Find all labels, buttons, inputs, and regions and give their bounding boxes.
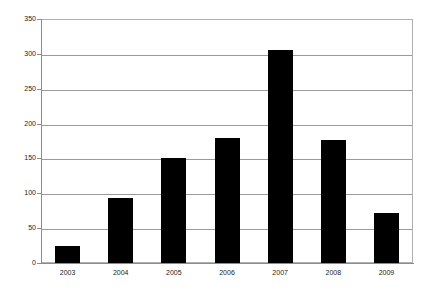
y-axis-tick-label: 350 [6, 15, 36, 23]
bar [215, 138, 240, 263]
bar-chart: 050100150200250300350 200320042005200620… [0, 0, 430, 291]
bar [55, 246, 80, 263]
bar [374, 213, 399, 263]
y-axis-tick-label: 250 [6, 85, 36, 93]
bar [321, 140, 346, 263]
bar [161, 158, 186, 263]
y-axis-tick-label: 150 [6, 154, 36, 162]
x-axis-tick-label: 2009 [359, 268, 413, 277]
x-axis-line [41, 263, 414, 264]
y-axis-tick-label: 100 [6, 189, 36, 197]
x-axis-tick-label: 2007 [253, 268, 307, 277]
y-axis-tick-label: 0 [6, 259, 36, 267]
x-axis-tick-label: 2003 [41, 268, 95, 277]
y-axis-tick-label: 50 [6, 224, 36, 232]
y-axis-tick-label: 200 [6, 120, 36, 128]
y-axis-tick-labels: 050100150200250300350 [0, 0, 36, 291]
y-axis-tick-label: 300 [6, 50, 36, 58]
x-axis-tick-label: 2005 [147, 268, 201, 277]
x-axis-tick-label: 2006 [200, 268, 254, 277]
bars-layer [41, 19, 413, 263]
bar [268, 50, 293, 263]
x-axis-tick-label: 2004 [94, 268, 148, 277]
bar [108, 198, 133, 263]
x-axis-tick-label: 2008 [306, 268, 360, 277]
